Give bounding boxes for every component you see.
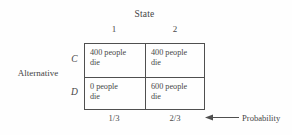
column-header-2: 2 bbox=[145, 24, 205, 34]
decision-matrix-figure: State 1 2 Alternative C D 400 people die… bbox=[0, 0, 292, 135]
column-header-1: 1 bbox=[84, 24, 144, 34]
cell-line-2: die bbox=[151, 58, 204, 68]
matrix-cell-d2: 600 people die bbox=[145, 77, 204, 109]
matrix-cell-c2: 400 people die bbox=[145, 44, 204, 77]
probability-caption: Probability bbox=[242, 113, 280, 123]
probability-value-column-2: 2/3 bbox=[145, 113, 205, 123]
cell-line-1: 400 people bbox=[90, 48, 145, 58]
row-group-title: Alternative bbox=[10, 68, 66, 78]
row-header-c: C bbox=[68, 54, 81, 64]
cell-line-2: die bbox=[90, 58, 145, 68]
matrix-cell-c1: 400 people die bbox=[85, 44, 145, 77]
row-header-d: D bbox=[68, 87, 81, 97]
cell-line-1: 400 people bbox=[151, 48, 204, 58]
cell-line-1: 0 people bbox=[90, 82, 145, 92]
cell-line-2: die bbox=[90, 92, 145, 102]
cell-line-2: die bbox=[151, 92, 204, 102]
column-group-title: State bbox=[84, 9, 205, 19]
cell-line-1: 600 people bbox=[151, 82, 204, 92]
left-arrow-icon bbox=[205, 112, 241, 123]
probability-value-column-1: 1/3 bbox=[84, 113, 144, 123]
matrix-cell-d1: 0 people die bbox=[85, 77, 145, 109]
payoff-matrix: 400 people die 400 people die 0 people d… bbox=[84, 43, 205, 110]
